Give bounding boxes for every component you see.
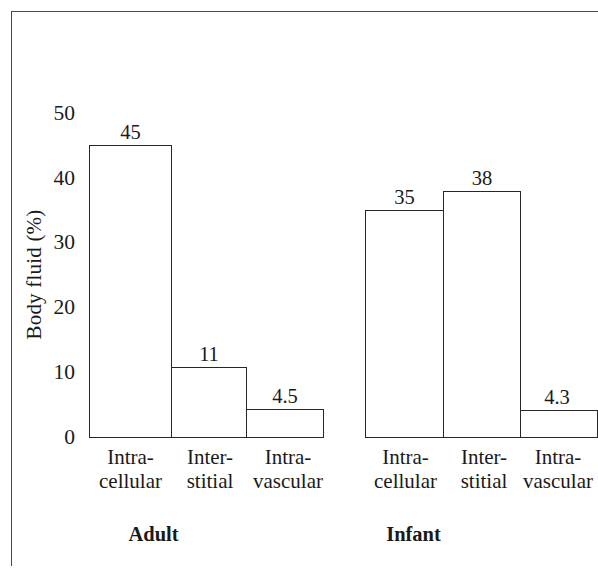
category-label-infant-interstitial: Inter- stitial (449, 446, 519, 493)
y-tick-label-0: 0 (31, 427, 75, 449)
bar-value-adult-interstitial: 11 (171, 344, 247, 365)
bar-infant-intravascular (520, 410, 598, 438)
bar-adult-interstitial (171, 367, 247, 438)
bar-value-infant-interstitial: 38 (443, 168, 521, 189)
group-label-adult: Adult (96, 524, 211, 545)
bar-adult-intracellular (89, 145, 172, 438)
category-label-line2: vascular (242, 470, 334, 494)
category-label-adult-intracellular: Intra- cellular (82, 446, 179, 493)
y-tick-label-10: 10 (31, 362, 75, 384)
category-label-adult-intravascular: Intra- vascular (242, 446, 334, 493)
category-label-line1: Inter- (187, 445, 233, 469)
y-tick-label-20: 20 (31, 297, 75, 319)
category-label-adult-interstitial: Inter- stitial (175, 446, 245, 493)
group-label-infant: Infant (356, 524, 471, 545)
y-tick-label-30: 30 (31, 232, 75, 254)
figure-bar-chart-body-fluid: Body fluid (%) 50 40 30 20 10 0 45 11 4.… (0, 0, 598, 578)
bar-value-adult-intracellular: 45 (89, 122, 172, 143)
bar-value-adult-intravascular: 4.5 (246, 386, 324, 407)
category-label-line1: Intra- (265, 445, 312, 469)
category-label-line1: Inter- (461, 445, 507, 469)
category-label-line2: stitial (175, 470, 245, 494)
category-label-infant-intracellular: Intra- cellular (357, 446, 454, 493)
category-label-line1: Intra- (382, 445, 429, 469)
y-tick-label-50: 50 (31, 103, 75, 125)
category-label-line2: vascular (512, 470, 598, 494)
category-label-infant-intravascular: Intra- vascular (512, 446, 598, 493)
category-label-line2: stitial (449, 470, 519, 494)
bar-infant-intracellular (365, 210, 444, 438)
bar-value-infant-intracellular: 35 (365, 187, 444, 208)
category-label-line2: cellular (82, 470, 179, 494)
plot-area: Body fluid (%) 50 40 30 20 10 0 45 11 4.… (0, 0, 598, 578)
category-label-line1: Intra- (107, 445, 154, 469)
bar-adult-intravascular (246, 409, 324, 438)
category-label-line2: cellular (357, 470, 454, 494)
bar-infant-interstitial (443, 191, 521, 438)
y-tick-label-40: 40 (31, 168, 75, 190)
bar-value-infant-intravascular: 4.3 (518, 387, 596, 408)
category-label-line1: Intra- (535, 445, 582, 469)
